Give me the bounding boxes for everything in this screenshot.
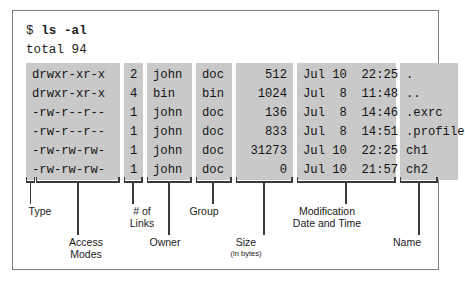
label-group: Group [176, 206, 232, 218]
command-prompt-line: $ ls -al [26, 24, 87, 38]
column-link-count: 2 4 1 1 1 1 [124, 63, 143, 180]
cell-modification-date: Jul 10 22:25 [297, 142, 396, 161]
cell-link-count: 2 [124, 66, 143, 85]
column-owner: john bin john john john john [147, 63, 192, 180]
cell-size: 31273 [236, 142, 293, 161]
cell-group: doc [196, 161, 232, 180]
cell-permissions: drwxr-xr-x [26, 66, 120, 85]
cell-link-count: 1 [124, 123, 143, 142]
label-size: Size(in bytes) [219, 237, 273, 258]
label-size-sub: (in bytes) [219, 249, 273, 258]
cell-group: doc [196, 142, 232, 161]
cell-group: doc [196, 104, 232, 123]
cell-file-name: .exrc [400, 104, 458, 123]
cell-size: 512 [236, 66, 293, 85]
column-permissions: drwxr-xr-x drwxr-xr-x -rw-r--r-- -rw-r--… [26, 63, 120, 180]
cell-owner: john [147, 161, 192, 180]
total-line: total 94 [26, 43, 87, 57]
terminal-output: $ ls -al total 94 drwxr-xr-x drwxr-xr-x … [13, 11, 440, 176]
cell-file-name: . [400, 66, 458, 85]
column-file-name: . .. .exrc .profile ch1 ch2 [400, 63, 458, 180]
cell-owner: john [147, 104, 192, 123]
cell-file-name: ch2 [400, 161, 458, 180]
cell-modification-date: Jul 10 21:57 [297, 161, 396, 180]
cell-group: doc [196, 123, 232, 142]
column-size: 512 1024 136 833 31273 0 [236, 63, 293, 180]
cell-permissions: -rw-r--r-- [26, 123, 120, 142]
cell-modification-date: Jul 8 14:51 [297, 123, 396, 142]
cell-owner: john [147, 66, 192, 85]
label-size-main: Size [236, 236, 256, 248]
cell-modification-date: Jul 10 22:25 [297, 66, 396, 85]
cell-permissions: drwxr-xr-x [26, 85, 120, 104]
cell-owner: john [147, 142, 192, 161]
cell-permissions: -rw-rw-rw- [26, 142, 120, 161]
cell-link-count: 4 [124, 85, 143, 104]
label-access-modes: Access Modes [53, 237, 119, 260]
figure-frame: $ ls -al total 94 drwxr-xr-x drwxr-xr-x … [12, 10, 439, 270]
label-modification-date: Modification Date and Time [269, 206, 385, 229]
cell-file-name: ch1 [400, 142, 458, 161]
label-link-count: # of Links [116, 206, 168, 229]
cell-size: 0 [236, 161, 293, 180]
cell-link-count: 1 [124, 142, 143, 161]
cell-modification-date: Jul 8 14:46 [297, 104, 396, 123]
cell-size: 833 [236, 123, 293, 142]
column-group: doc bin doc doc doc doc [196, 63, 232, 180]
label-type: Type [16, 206, 64, 218]
cell-permissions: -rw-r--r-- [26, 104, 120, 123]
cell-modification-date: Jul 8 11:48 [297, 85, 396, 104]
label-file-name: Name [379, 237, 435, 249]
cell-file-name: .. [400, 85, 458, 104]
command-text: ls -al [41, 24, 87, 38]
cell-link-count: 1 [124, 104, 143, 123]
cell-permissions: -rw-rw-rw- [26, 161, 120, 180]
cell-owner: john [147, 123, 192, 142]
cell-link-count: 1 [124, 161, 143, 180]
cell-size: 136 [236, 104, 293, 123]
label-owner: Owner [137, 237, 193, 249]
cell-group: bin [196, 85, 232, 104]
prompt-sigil: $ [26, 24, 41, 38]
cell-size: 1024 [236, 85, 293, 104]
column-modification-date: Jul 10 22:25 Jul 8 11:48 Jul 8 14:46 Jul… [297, 63, 396, 180]
cell-file-name: .profile [400, 123, 458, 142]
cell-group: doc [196, 66, 232, 85]
cell-owner: bin [147, 85, 192, 104]
